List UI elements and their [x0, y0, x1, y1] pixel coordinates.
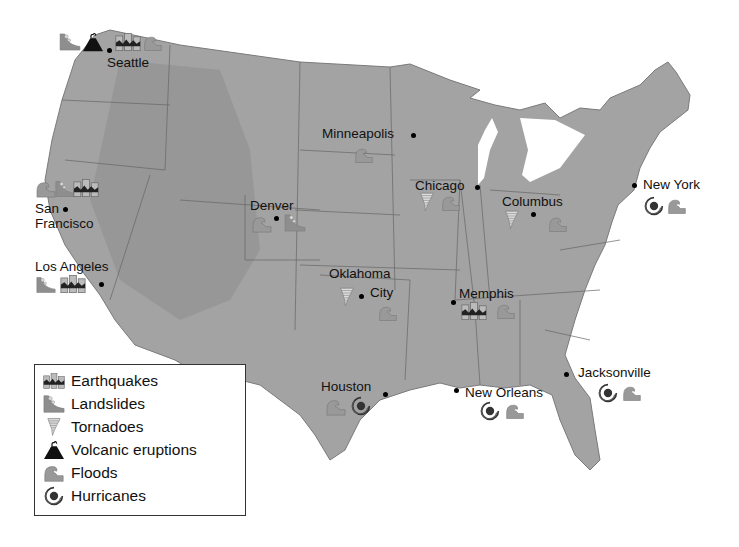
hurricane-icon [644, 196, 664, 216]
city-dot-minneapolis [411, 133, 416, 138]
legend-item-landslides: Landslides [43, 393, 145, 415]
city-dot-los-angeles [99, 282, 104, 287]
legend-item-volcanic-eruptions: Volcanic eruptions [43, 439, 197, 461]
city-dot-denver [274, 216, 279, 221]
city-label-seattle: Seattle [107, 55, 149, 70]
flood-icon [325, 398, 347, 416]
city-label-minneapolis: Minneapolis [322, 126, 394, 141]
city-dot-new-orleans [454, 388, 459, 393]
hurricane-icon [351, 396, 371, 416]
flood-icon [35, 180, 57, 198]
flood-icon [378, 304, 398, 322]
city-dot-san-francisco [63, 207, 68, 212]
earthquake-icon [60, 274, 86, 294]
city-label-san-francisco-line2: Francisco [35, 216, 94, 231]
city-label-san-francisco-line1: San [35, 201, 59, 216]
tornado-icon [339, 286, 355, 308]
landslide-icon [59, 33, 81, 51]
city-dot-new-york [632, 183, 637, 188]
earthquake-icon [43, 371, 65, 391]
city-dot-seattle [107, 48, 112, 53]
legend-label: Floods [71, 464, 118, 482]
hurricane-icon [480, 401, 500, 421]
city-label-new-orleans: New Orleans [465, 385, 543, 400]
city-dot-houston [383, 392, 388, 397]
legend-label: Landslides [71, 395, 145, 413]
legend-label: Earthquakes [71, 372, 158, 390]
flood-icon [505, 402, 525, 420]
legend-item-earthquakes: Earthquakes [43, 370, 158, 392]
volcano-icon [43, 440, 65, 460]
landslide-icon [36, 276, 56, 294]
city-label-columbus: Columbus [502, 194, 563, 209]
city-label-jacksonville: Jacksonville [578, 365, 651, 380]
city-label-memphis: Memphis [459, 286, 514, 301]
city-label-oklahoma-city-line1: Oklahoma [329, 266, 391, 281]
legend-item-tornadoes: Tornadoes [43, 416, 143, 438]
earthquake-icon [461, 301, 487, 321]
flood-icon [354, 146, 374, 164]
flood-icon [548, 215, 568, 233]
volcano-icon [82, 31, 104, 53]
city-dot-chicago [475, 185, 480, 190]
legend-label: Tornadoes [71, 418, 143, 436]
tornado-icon [504, 209, 520, 231]
tornado-icon [43, 417, 65, 437]
city-label-houston: Houston [321, 379, 371, 394]
city-label-denver: Denver [250, 198, 294, 213]
city-label-oklahoma-city-line2: City [370, 285, 393, 300]
landslide-icon [55, 180, 75, 198]
flood-icon [496, 302, 516, 320]
city-label-los-angeles: Los Angeles [35, 259, 109, 274]
flood-icon [251, 215, 273, 233]
legend-item-hurricanes: Hurricanes [43, 485, 146, 507]
landslide-icon [284, 214, 306, 232]
landslide-icon [43, 394, 65, 414]
city-label-new-york: New York [643, 177, 700, 192]
legend-label: Hurricanes [71, 487, 146, 505]
flood-icon [667, 197, 687, 215]
legend-label: Volcanic eruptions [71, 441, 197, 459]
earthquake-icon [115, 32, 141, 52]
legend: Earthquakes Landslides Tornadoes Volcani… [34, 364, 246, 516]
flood-icon [441, 194, 461, 212]
hurricane-icon [598, 383, 618, 403]
flood-icon [622, 384, 642, 402]
city-dot-memphis [451, 300, 456, 305]
legend-item-floods: Floods [43, 462, 118, 484]
tornado-icon [419, 191, 435, 213]
earthquake-icon [73, 178, 99, 198]
city-dot-columbus [531, 212, 536, 217]
flood-icon [43, 463, 65, 483]
city-dot-oklahoma-city [359, 294, 364, 299]
flood-icon [143, 34, 163, 52]
hurricane-icon [43, 486, 65, 506]
city-dot-jacksonville [564, 372, 569, 377]
